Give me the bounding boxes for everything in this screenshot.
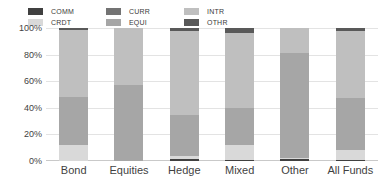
bar-segment-crdt[interactable] <box>336 150 365 161</box>
bar-segment-intr[interactable] <box>280 28 309 53</box>
bar-segment-comm[interactable] <box>336 160 365 161</box>
legend-item-label: INTR <box>207 8 224 15</box>
bar-segment-intr[interactable] <box>114 28 143 85</box>
legend-swatch-icon <box>184 8 199 15</box>
stacked-bar[interactable] <box>225 28 254 161</box>
stacked-bar[interactable] <box>280 28 309 161</box>
bar-slot <box>46 28 101 161</box>
y-axis-tick-label: 20% <box>24 129 42 139</box>
bar-segment-crdt[interactable] <box>225 145 254 160</box>
legend-item-comm[interactable]: COMM <box>28 6 106 16</box>
bar-segment-intr[interactable] <box>170 31 199 115</box>
legend-swatch-icon <box>28 8 43 15</box>
y-axis-tick-label: 40% <box>24 103 42 113</box>
stacked-bar-chart: COMMCRDTCURREQUIINTROTHR 0%20%40%60%80%1… <box>0 0 382 193</box>
bar-segment-intr[interactable] <box>336 31 365 98</box>
bar-segment-crdt[interactable] <box>59 145 88 161</box>
x-axis-tick-label: Mixed <box>212 164 267 186</box>
x-axis: BondEquitiesHedgeMixedOtherAll Funds <box>46 164 378 186</box>
bar-segment-equi[interactable] <box>59 97 88 145</box>
legend-item-equi[interactable]: EQUI <box>106 17 184 27</box>
x-axis-tick-label: Bond <box>46 164 101 186</box>
y-axis-tick-label: 60% <box>24 76 42 86</box>
legend-swatch-icon <box>184 19 199 26</box>
x-axis-tick-label: Other <box>267 164 322 186</box>
bar-segment-comm[interactable] <box>225 160 254 161</box>
stacked-bar[interactable] <box>59 28 88 161</box>
bar-segment-equi[interactable] <box>170 115 199 156</box>
bar-slot <box>212 28 267 161</box>
legend-item-othr[interactable]: OTHR <box>184 17 262 27</box>
y-axis-tick-label: 0% <box>29 156 42 166</box>
legend-item-label: EQUI <box>129 19 147 26</box>
y-axis: 0%20%40%60%80%100% <box>2 28 42 161</box>
legend-swatch-icon <box>106 8 121 15</box>
bar-segment-comm[interactable] <box>280 159 309 161</box>
bar-slot <box>267 28 322 161</box>
legend-item-label: COMM <box>51 8 74 15</box>
y-axis-tick-label: 80% <box>24 50 42 60</box>
bar-segment-intr[interactable] <box>59 30 88 97</box>
x-axis-tick-label: All Funds <box>323 164 378 186</box>
bar-segment-intr[interactable] <box>225 33 254 107</box>
chart-legend: COMMCRDTCURREQUIINTROTHR <box>28 6 328 27</box>
legend-item-label: OTHR <box>207 19 228 26</box>
legend-item-label: CRDT <box>51 19 71 26</box>
bar-slot <box>101 28 156 161</box>
bar-segment-comm[interactable] <box>170 159 199 161</box>
bar-slot <box>323 28 378 161</box>
stacked-bar[interactable] <box>170 28 199 161</box>
bar-segment-equi[interactable] <box>225 108 254 145</box>
bar-segment-equi[interactable] <box>114 85 143 161</box>
y-axis-tick-label: 100% <box>19 23 42 33</box>
stacked-bar[interactable] <box>336 28 365 161</box>
stacked-bar[interactable] <box>114 28 143 161</box>
plot-area: 0%20%40%60%80%100% BondEquitiesHedgeMixe… <box>0 28 382 193</box>
x-axis-tick-label: Hedge <box>157 164 212 186</box>
legend-item-intr[interactable]: INTR <box>184 6 262 16</box>
bars-layer <box>46 28 378 161</box>
bar-segment-equi[interactable] <box>280 53 309 158</box>
bar-segment-equi[interactable] <box>336 98 365 150</box>
legend-item-label: CURR <box>129 8 150 15</box>
bar-slot <box>157 28 212 161</box>
legend-item-curr[interactable]: CURR <box>106 6 184 16</box>
legend-swatch-icon <box>106 19 121 26</box>
x-axis-tick-label: Equities <box>101 164 156 186</box>
